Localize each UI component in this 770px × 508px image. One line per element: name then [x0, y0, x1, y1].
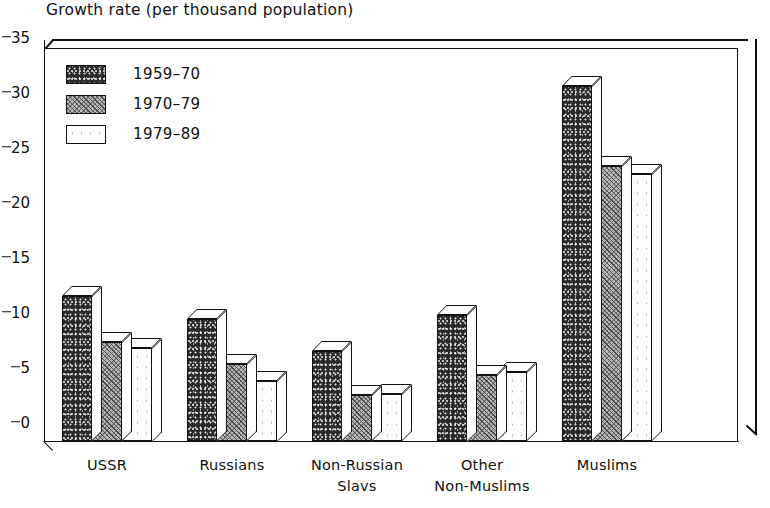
legend-item: 1979–89 — [66, 119, 201, 149]
bar-side-face — [467, 305, 477, 441]
bar-side-face — [592, 76, 602, 441]
bar-side-face — [372, 385, 382, 441]
legend-label: 1979–89 — [133, 125, 201, 143]
bar — [62, 296, 92, 441]
y-axis-tick-label: 35 — [11, 29, 30, 47]
bar-side-face — [152, 338, 162, 441]
bar-group — [312, 47, 414, 441]
bar-front-face — [562, 86, 592, 441]
bar-side-face — [622, 156, 632, 441]
bar-side-face — [497, 365, 507, 441]
bar — [187, 319, 217, 441]
y-axis-tick-mark — [2, 146, 11, 148]
legend-swatch — [66, 95, 106, 114]
y-axis-tick-label: 0 — [20, 414, 30, 432]
legend-item: 1970–79 — [66, 89, 201, 119]
bar-front-face — [62, 296, 92, 441]
bar — [562, 86, 592, 441]
baseline-3d-lip — [44, 441, 738, 450]
chart-root: Growth rate (per thousand population) 05… — [0, 0, 770, 508]
y-axis-tick-mark — [2, 256, 11, 258]
legend-label: 1959–70 — [133, 65, 201, 83]
bar-front-face — [437, 315, 467, 442]
legend: 1959–701970–791979–89 — [66, 59, 201, 149]
y-axis-tick-label: 10 — [11, 304, 30, 322]
legend-item: 1959–70 — [66, 59, 201, 89]
x-axis-category-label: Muslims — [527, 455, 687, 476]
bar-group — [562, 47, 664, 441]
legend-label: 1970–79 — [133, 95, 201, 113]
bar-side-face — [217, 309, 227, 441]
bar-group — [437, 47, 539, 441]
y-axis-tick-label: 20 — [11, 194, 30, 212]
bar-side-face — [402, 384, 412, 441]
bar-side-face — [342, 341, 352, 441]
chart-title: Growth rate (per thousand population) — [46, 1, 353, 19]
bar — [437, 315, 467, 442]
legend-swatch — [66, 65, 106, 84]
y-axis-tick-mark — [2, 91, 11, 93]
legend-swatch — [66, 125, 106, 144]
bar-side-face — [92, 286, 102, 441]
plot-frame-right-edge — [755, 39, 757, 435]
y-axis-tick-label: 30 — [11, 84, 30, 102]
y-axis-tick-mark — [11, 421, 20, 423]
bar-front-face — [187, 319, 217, 441]
y-axis-tick-mark — [2, 311, 11, 313]
bar-side-face — [652, 164, 662, 441]
bar-side-face — [527, 362, 537, 441]
y-axis-tick-mark — [11, 366, 20, 368]
y-axis-tick-mark — [2, 201, 11, 203]
bar-side-face — [247, 354, 257, 441]
y-axis-tick-label: 15 — [11, 249, 30, 267]
bar-front-face — [312, 351, 342, 441]
y-axis-tick-label: 5 — [20, 359, 30, 377]
bar — [312, 351, 342, 441]
bar-side-face — [122, 332, 132, 441]
y-axis-tick-label: 25 — [11, 139, 30, 157]
bar-side-face — [277, 371, 287, 441]
bar-group — [187, 47, 289, 441]
y-axis-tick-mark — [2, 36, 11, 38]
